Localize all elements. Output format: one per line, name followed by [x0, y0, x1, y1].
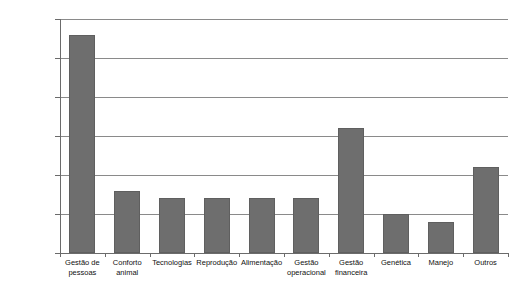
x-axis-label-line: Outros [459, 258, 512, 268]
x-tick-mark [105, 253, 106, 257]
x-axis-label-line: financeira [325, 268, 378, 278]
x-tick-mark [508, 253, 509, 257]
bar [293, 198, 319, 253]
bar [69, 35, 95, 253]
bar [249, 198, 275, 253]
x-tick-mark [60, 253, 61, 257]
x-axis-labels: Gestão depessoasConfortoanimalTecnologia… [60, 258, 508, 288]
x-tick-mark [329, 253, 330, 257]
x-tick-mark [463, 253, 464, 257]
bar [383, 214, 409, 253]
bar [338, 128, 364, 253]
bar [204, 198, 230, 253]
bar [159, 198, 185, 253]
x-tick-mark [284, 253, 285, 257]
bars-layer [60, 19, 508, 253]
bar [114, 191, 140, 253]
x-axis-label-line: animal [101, 268, 154, 278]
bar-chart: 30% 25% 20% 15% 10% 5% 0% Gestão depesso… [0, 0, 524, 292]
x-tick-mark [418, 253, 419, 257]
x-tick-mark [150, 253, 151, 257]
x-axis-label: Outros [459, 258, 512, 268]
bar [473, 167, 499, 253]
x-tick-mark [194, 253, 195, 257]
bar [428, 222, 454, 253]
x-tick-mark [239, 253, 240, 257]
x-tick-mark [374, 253, 375, 257]
